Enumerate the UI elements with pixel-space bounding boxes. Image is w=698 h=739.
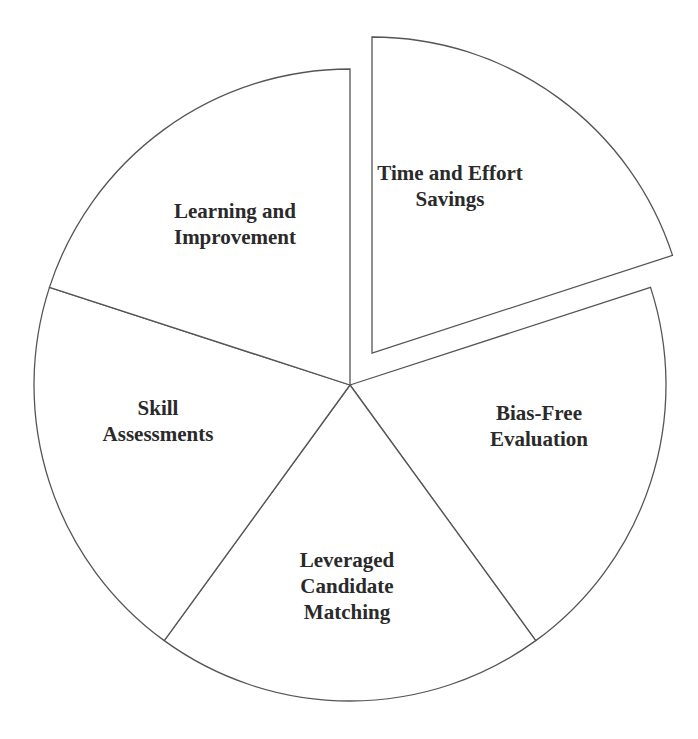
slice-label: LeveragedCandidateMatching xyxy=(300,548,395,624)
pie-chart: Time and EffortSavingsBias-FreeEvaluatio… xyxy=(0,0,698,739)
